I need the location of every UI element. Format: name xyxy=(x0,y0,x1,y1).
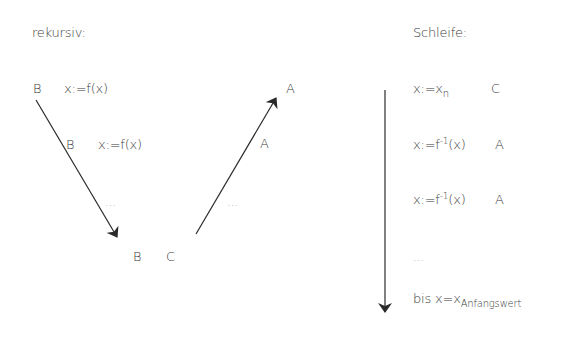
loop-row-3-expr-sup: -1 xyxy=(440,191,449,201)
recursive-down-ellipsis: … xyxy=(105,195,117,211)
loop-row-2-expr-tail: (x) xyxy=(448,137,465,152)
loop-row-2-expr-sup: -1 xyxy=(440,136,449,146)
recursion-down-arrow xyxy=(36,100,117,237)
recursive-step1-expr: x:=f(x) xyxy=(64,81,108,97)
loop-row-1-expr-base: x:=x xyxy=(413,81,443,96)
loop-row-3-expr: x:=f-1(x) xyxy=(413,192,466,209)
loop-row-3-expr-base: x:=f xyxy=(413,192,440,207)
loop-row-2-label: A xyxy=(495,137,504,153)
loop-row-1-label: C xyxy=(491,81,500,97)
loop-row-2-expr-base: x:=f xyxy=(413,137,440,152)
loop-row-3-expr-tail: (x) xyxy=(448,192,465,207)
loop-ellipsis: … xyxy=(413,250,425,266)
loop-end-base: bis x=x xyxy=(413,291,461,306)
recursive-step1-label: B xyxy=(33,81,41,97)
recursion-up-arrow xyxy=(196,98,276,234)
recursive-bottom-c: C xyxy=(166,249,175,265)
recursive-up-ellipsis: … xyxy=(227,195,239,211)
recursive-up-top-a: A xyxy=(286,81,295,97)
loop-end-condition: bis x=xAnfangswert xyxy=(413,291,521,308)
recursive-heading: rekursiv: xyxy=(32,25,86,41)
loop-row-2-expr: x:=f-1(x) xyxy=(413,137,466,154)
loop-row-1-expr-sub: n xyxy=(443,88,449,99)
loop-end-sub: Anfangswert xyxy=(461,298,522,309)
recursive-step2-expr: x:=f(x) xyxy=(98,137,142,153)
recursive-bottom-b: B xyxy=(133,249,141,265)
loop-heading: Schleife: xyxy=(413,25,467,41)
loop-row-3-label: A xyxy=(495,192,504,208)
recursive-up-mid-a: A xyxy=(260,136,269,152)
loop-row-1-expr: x:=xn xyxy=(413,81,449,98)
recursive-step2-label: B xyxy=(66,137,74,153)
